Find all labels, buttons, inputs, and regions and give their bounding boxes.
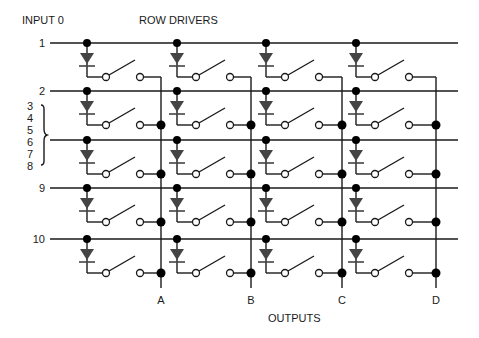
output-junction-dot (432, 121, 441, 130)
switch-icon (109, 256, 135, 271)
diode-icon (170, 198, 184, 209)
junction-dot (352, 136, 360, 144)
matrix-cell (79, 235, 166, 278)
diode-icon (259, 198, 273, 209)
output-junction-dot (247, 218, 256, 227)
row-label: 10 (33, 233, 45, 245)
switch-icon (199, 205, 225, 220)
output-label: B (247, 294, 254, 306)
diode-icon (170, 150, 184, 161)
junction-dot (262, 39, 270, 47)
matrix-cell (348, 39, 436, 81)
output-junction-dot (157, 121, 166, 130)
switch-contact (282, 74, 289, 81)
diode-icon (80, 198, 94, 209)
matrix-cell (258, 87, 347, 130)
row-input-labels: 12910 (33, 37, 45, 245)
output-label: A (157, 294, 165, 306)
junction-dot (83, 136, 91, 144)
output-junction-dot (247, 170, 256, 179)
switch-icon (288, 256, 314, 271)
diode-icon (259, 53, 273, 64)
junction-dot (262, 235, 270, 243)
matrix-cell (79, 136, 166, 179)
switch-contact (103, 270, 110, 277)
junction-dot (83, 87, 91, 95)
junction-dot (83, 39, 91, 47)
switch-icon (288, 108, 314, 123)
switch-icon (378, 157, 404, 172)
diode-icon (80, 249, 94, 260)
switch-contact (372, 219, 379, 226)
junction-dot (173, 235, 181, 243)
switch-contact (372, 122, 379, 129)
switch-contact (372, 74, 379, 81)
switch-contact (316, 122, 323, 129)
switch-contact (372, 270, 379, 277)
brace-input-label: 3 (27, 100, 33, 112)
junction-dot (352, 235, 360, 243)
output-junction-dot (338, 121, 347, 130)
switch-icon (378, 256, 404, 271)
diode-icon (170, 53, 184, 64)
matrix-cell (169, 184, 256, 227)
diode-icon (170, 249, 184, 260)
switch-icon (199, 157, 225, 172)
switch-icon (109, 60, 135, 75)
switch-contact (193, 171, 200, 178)
matrix-cell (169, 136, 256, 179)
switch-contact (193, 270, 200, 277)
matrix-cell (169, 235, 256, 278)
switch-contact (227, 219, 234, 226)
switch-contact (103, 74, 110, 81)
brace-input-label: 7 (27, 148, 33, 160)
diode-icon (349, 150, 363, 161)
switch-contact (227, 122, 234, 129)
row-label: 1 (39, 37, 45, 49)
switch-contact (137, 219, 144, 226)
output-junction-dot (432, 218, 441, 227)
matrix-cell (169, 39, 251, 81)
switch-contact (137, 270, 144, 277)
switch-contact (282, 219, 289, 226)
matrix-cells (79, 39, 441, 278)
matrix-cell (258, 39, 342, 81)
matrix-cell (348, 184, 441, 227)
output-junction-dot (338, 218, 347, 227)
row-label: 2 (39, 85, 45, 97)
switch-contact (316, 270, 323, 277)
matrix-cell (258, 235, 347, 278)
matrix-cell (348, 87, 441, 130)
switch-contact (193, 74, 200, 81)
switch-icon (288, 157, 314, 172)
switch-contact (103, 171, 110, 178)
brace-input-label: 5 (27, 124, 33, 136)
brace-input-label: 4 (27, 112, 33, 124)
diode-icon (80, 101, 94, 112)
junction-dot (173, 87, 181, 95)
switch-contact (193, 122, 200, 129)
output-junction-dot (157, 269, 166, 278)
switch-icon (199, 60, 225, 75)
matrix-cell (258, 136, 347, 179)
switch-contact (406, 270, 413, 277)
switch-contact (406, 74, 413, 81)
output-labels: ABCD (157, 294, 440, 306)
matrix-cell (79, 184, 166, 227)
input-title: INPUT 0 (22, 14, 64, 26)
output-junction-dot (432, 269, 441, 278)
output-junction-dot (247, 269, 256, 278)
junction-dot (173, 184, 181, 192)
switch-contact (227, 171, 234, 178)
output-junction-dot (432, 170, 441, 179)
junction-dot (262, 184, 270, 192)
switch-icon (109, 157, 135, 172)
switch-contact (316, 171, 323, 178)
matrix-cell (79, 39, 161, 81)
junction-dot (352, 87, 360, 95)
output-label: C (338, 294, 346, 306)
switch-contact (137, 171, 144, 178)
switch-icon (199, 108, 225, 123)
switch-icon (109, 108, 135, 123)
switch-contact (406, 122, 413, 129)
